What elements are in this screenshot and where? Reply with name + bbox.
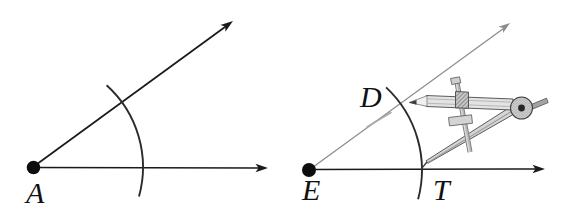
- compass-handle: [531, 98, 549, 109]
- label-d: D: [359, 80, 382, 113]
- compass-rod-top-cap: [451, 77, 461, 85]
- left-construction-arc: [107, 85, 143, 196]
- label-a: A: [24, 176, 45, 209]
- drafting-compass: [409, 77, 548, 169]
- compass-hinge-center-dot: [518, 105, 525, 112]
- left-diagonal-ray: [33, 26, 226, 167]
- construction-figure: A: [0, 0, 571, 217]
- compass-pencil-cone: [409, 96, 427, 107]
- left-angle-diagram: A: [24, 21, 268, 209]
- label-t: T: [433, 173, 452, 206]
- vertex-a-dot: [27, 161, 41, 175]
- compass-pencil-leg: [426, 96, 513, 111]
- compass-wing-nut: [449, 115, 473, 126]
- label-e: E: [301, 173, 320, 206]
- compass-rod-holder-block: [456, 92, 469, 109]
- left-diagonal-ray-arrowhead-icon: [220, 21, 233, 32]
- construction-svg: A: [0, 0, 571, 217]
- pencil-mark-at-d: [367, 112, 392, 127]
- right-construction-diagram: E D T: [301, 23, 548, 206]
- left-horizontal-ray: [33, 168, 259, 169]
